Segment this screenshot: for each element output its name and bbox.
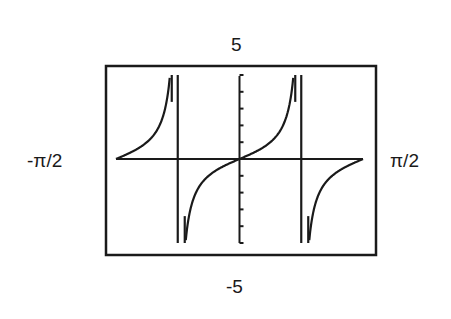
graph-canvas (0, 0, 451, 319)
